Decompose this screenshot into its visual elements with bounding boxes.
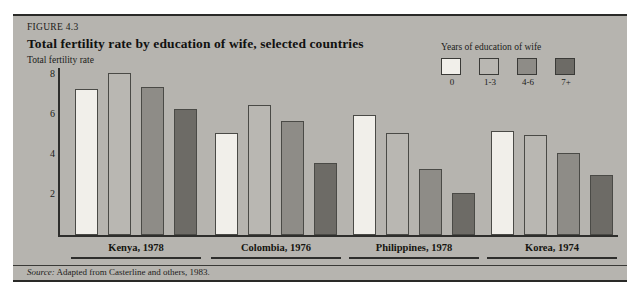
- bar: [248, 105, 271, 235]
- bar: [524, 135, 547, 235]
- figure-panel: FIGURE 4.3 Total fertility rate by educa…: [13, 14, 627, 282]
- group-label: Korea, 1974: [491, 242, 613, 253]
- bar: [386, 133, 409, 235]
- bar: [314, 163, 337, 235]
- group-rule: [487, 257, 617, 259]
- source-note: Source: Adapted from Casterline and othe…: [27, 267, 210, 277]
- bar: [75, 89, 98, 235]
- bar: [452, 193, 475, 235]
- bar: [174, 109, 197, 235]
- plot-area: 2468 Kenya, 1978Colombia, 1976Philippine…: [13, 16, 627, 282]
- group-label: Kenya, 1978: [75, 242, 197, 253]
- group-rule: [349, 257, 479, 259]
- bar: [557, 153, 580, 235]
- bar: [590, 175, 613, 235]
- source-divider: [13, 265, 627, 266]
- bar: [281, 121, 304, 235]
- bar: [419, 169, 442, 235]
- source-prefix: Source:: [27, 267, 55, 277]
- bar: [353, 115, 376, 235]
- bar: [108, 73, 131, 235]
- bar: [215, 133, 238, 235]
- group-label: Colombia, 1976: [215, 242, 337, 253]
- group-rule: [211, 257, 341, 259]
- bar: [491, 131, 514, 235]
- group-label: Philippines, 1978: [353, 242, 475, 253]
- bar: [141, 87, 164, 235]
- group-rule: [71, 257, 201, 259]
- source-text: Adapted from Casterline and others, 1983…: [56, 267, 209, 277]
